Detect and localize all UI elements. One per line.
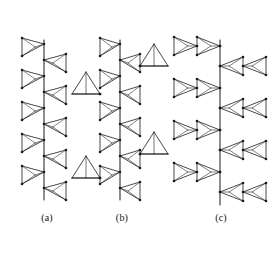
tetra-base-node (99, 101, 102, 104)
tetra-base-node (139, 135, 142, 138)
bowtie-waist-node (196, 87, 199, 90)
triangle-edge (72, 72, 86, 94)
tetra-base-node (65, 135, 68, 138)
tetra-base-node (139, 85, 142, 88)
tetra-base-node (65, 85, 68, 88)
tetra-base-node (139, 149, 142, 152)
panel-c-diagram (173, 36, 268, 205)
tetra-base-node (265, 56, 268, 59)
tetra-base-node (196, 78, 199, 81)
tetra-base-node (242, 56, 245, 59)
tetra-apex-node (119, 75, 122, 78)
tetra-base-node (139, 167, 142, 170)
tetra-edge (120, 86, 140, 92)
panel-label-b: (b) (102, 212, 142, 223)
tetra-base-node (99, 55, 102, 58)
tetra-base-node (65, 103, 68, 106)
tetra-internal-edge (22, 38, 35, 47)
tetra-base-node (242, 200, 245, 203)
tetra-internal-edge (128, 182, 140, 191)
tetra-base-node (21, 37, 24, 40)
tetra-edge (100, 134, 120, 140)
tetra-base-node (173, 180, 176, 183)
branch-attach-node (139, 153, 142, 156)
tetra-base-node (196, 36, 199, 39)
tetra-internal-edge (128, 118, 140, 127)
tetra-base-node (21, 183, 24, 186)
tetra-base-node (139, 103, 142, 106)
tetra-base-node (196, 96, 199, 99)
tetra-internal-edge (22, 47, 35, 56)
tetra-internal-edge (128, 54, 140, 63)
tetra-base-node (139, 53, 142, 56)
tetra-internal-edge (53, 150, 66, 159)
tetra-base-node (21, 133, 24, 136)
tetra-internal-edge (22, 166, 35, 175)
tetra-base-node (65, 149, 68, 152)
tetra-internal-edge (128, 191, 140, 200)
tetra-base-node (65, 199, 68, 202)
tetra-internal-edge (53, 159, 66, 168)
tetra-edge (22, 134, 44, 140)
tetra-base-node (139, 117, 142, 120)
tetra-base-node (21, 87, 24, 90)
tetra-internal-edge (100, 175, 112, 184)
tetra-edge (100, 102, 120, 108)
tetra-internal-edge (22, 79, 35, 88)
tetra-apex-node (43, 171, 46, 174)
tetra-base-node (21, 69, 24, 72)
tetra-internal-edge (53, 182, 66, 191)
tetra-base-node (265, 158, 268, 161)
tetra-internal-edge (128, 63, 140, 72)
tetra-edge (100, 70, 120, 76)
backbone-node (219, 87, 222, 90)
backbone-node (219, 171, 222, 174)
tetra-internal-edge (100, 47, 112, 56)
tetra-edge (44, 182, 66, 188)
bowtie-waist-node (242, 149, 245, 152)
tetra-base-node (65, 167, 68, 170)
panel-a-diagram (21, 37, 68, 202)
tetra-internal-edge (53, 95, 66, 104)
tetra-apex-node (43, 187, 46, 190)
tetra-internal-edge (100, 143, 112, 152)
tetra-internal-edge (100, 134, 112, 143)
tetra-internal-edge (22, 111, 35, 120)
tetra-apex-node (119, 187, 122, 190)
bowtie-waist-node (242, 65, 245, 68)
figure-container: (a) (b) (c) (0, 0, 279, 255)
branch-attach-node (99, 93, 102, 96)
tetra-base-node (99, 183, 102, 186)
tetra-internal-edge (22, 70, 35, 79)
tetra-base-node (21, 101, 24, 104)
tetra-edge (120, 150, 140, 156)
tetra-base-node (99, 119, 102, 122)
tetra-apex-node (43, 75, 46, 78)
tetra-edge (22, 38, 44, 44)
bowtie-waist-node (196, 129, 199, 132)
tetra-apex-node (119, 91, 122, 94)
tetra-base-node (173, 120, 176, 123)
tetra-internal-edge (128, 86, 140, 95)
tetra-base-node (173, 96, 176, 99)
tetra-base-node (242, 98, 245, 101)
tetra-internal-edge (100, 111, 112, 120)
tetra-edge (120, 182, 140, 188)
bowtie-waist-node (242, 107, 245, 110)
tetra-base-node (265, 200, 268, 203)
tetra-internal-edge (100, 79, 112, 88)
tetra-base-node (173, 138, 176, 141)
tetra-internal-edge (128, 150, 140, 159)
tetra-apex-node (119, 107, 122, 110)
backbone-node (219, 65, 222, 68)
branch-attach-node (99, 177, 102, 180)
tetra-base-node (21, 165, 24, 168)
tetra-apex-node (119, 43, 122, 46)
tetra-edge (120, 54, 140, 60)
tetra-internal-edge (22, 143, 35, 152)
branch-attach-node (139, 65, 142, 68)
tetra-edge (44, 54, 66, 60)
tetra-base-node (265, 116, 268, 119)
backbone-node (219, 45, 222, 48)
triangle-edge (154, 44, 168, 66)
